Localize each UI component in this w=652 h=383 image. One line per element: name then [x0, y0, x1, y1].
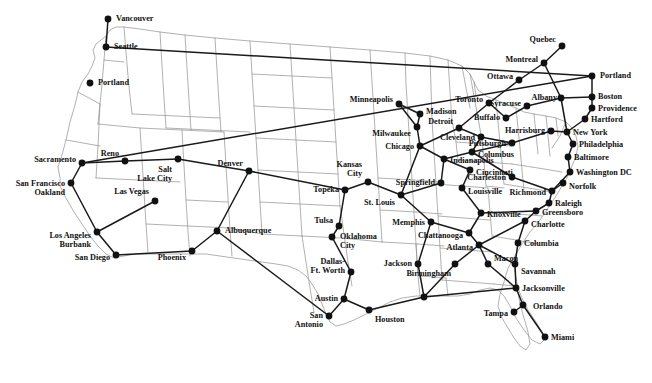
city-node[interactable] [105, 16, 112, 23]
city-node[interactable] [452, 261, 459, 268]
city-label: Harrisburg [505, 127, 545, 136]
city-label: Orlando [533, 303, 563, 312]
city-label: Seattle [114, 43, 138, 52]
city-node[interactable] [485, 261, 492, 268]
city-node[interactable] [417, 143, 424, 150]
city-label: Sacramento [34, 156, 76, 165]
city-node[interactable] [522, 218, 529, 225]
city-node[interactable] [341, 296, 348, 303]
city-label: Boston [598, 93, 622, 102]
city-label: Macon [494, 255, 518, 264]
city-label: Montreal [505, 56, 538, 65]
city-label: San Francisco Oakland [16, 180, 65, 197]
city-node[interactable] [524, 103, 531, 110]
city-node[interactable] [456, 125, 463, 132]
city-node[interactable] [541, 60, 548, 67]
city-node[interactable] [533, 208, 540, 215]
city-label: Columbia [524, 240, 559, 249]
city-node[interactable] [564, 129, 571, 136]
city-label: Chicago [385, 143, 414, 152]
city-node[interactable] [396, 101, 403, 108]
city-node[interactable] [113, 252, 120, 259]
city-node[interactable] [342, 187, 349, 194]
city-node[interactable] [189, 248, 196, 255]
city-node[interactable] [542, 334, 549, 341]
city-node[interactable] [570, 141, 577, 148]
city-node[interactable] [558, 95, 565, 102]
city-label: Toronto [455, 96, 483, 105]
city-node[interactable] [478, 210, 485, 217]
route-line [97, 232, 116, 255]
city-node[interactable] [326, 313, 333, 320]
city-node[interactable] [476, 242, 483, 249]
city-node[interactable] [417, 111, 424, 118]
city-node[interactable] [459, 185, 466, 192]
city-node[interactable] [589, 105, 596, 112]
city-node[interactable] [336, 223, 343, 230]
city-node[interactable] [520, 302, 527, 309]
city-label: San Diego [75, 254, 110, 263]
city-node[interactable] [589, 73, 596, 80]
city-node[interactable] [516, 77, 523, 84]
city-label: Syracuse [490, 100, 521, 109]
route-network-map: VancouverSeattlePortlandSacramentoSan Fr… [0, 0, 652, 383]
city-node[interactable] [366, 307, 373, 314]
city-node[interactable] [515, 240, 522, 247]
city-node[interactable] [152, 198, 159, 205]
city-node[interactable] [79, 160, 86, 167]
city-node[interactable] [87, 80, 94, 87]
city-node[interactable] [559, 43, 566, 50]
city-node[interactable] [546, 200, 553, 207]
city-label: Houston [375, 316, 405, 325]
city-node[interactable] [565, 154, 572, 161]
city-node[interactable] [365, 179, 372, 186]
city-node[interactable] [589, 94, 596, 101]
route-line [369, 297, 424, 310]
route-line [71, 163, 82, 183]
city-node[interactable] [68, 180, 75, 187]
city-node[interactable] [582, 116, 589, 123]
city-node[interactable] [441, 156, 448, 163]
city-label: Richmond [510, 189, 546, 198]
city-node[interactable] [103, 44, 110, 51]
city-node[interactable] [329, 234, 336, 241]
city-label: Charleston [467, 174, 506, 183]
city-node[interactable] [466, 230, 473, 237]
city-label: Albany [532, 94, 557, 103]
route-line [82, 76, 592, 163]
city-label: Washington DC [576, 169, 632, 178]
city-node[interactable] [348, 269, 355, 276]
city-node[interactable] [398, 192, 405, 199]
city-node[interactable] [513, 285, 520, 292]
city-node[interactable] [428, 219, 435, 226]
city-node[interactable] [509, 140, 516, 147]
city-node[interactable] [246, 168, 253, 175]
city-label: Salt Lake City [137, 166, 172, 183]
city-node[interactable] [94, 229, 101, 236]
city-node[interactable] [549, 188, 556, 195]
city-node[interactable] [503, 115, 510, 122]
city-label: New York [573, 129, 608, 138]
route-line [561, 97, 592, 98]
city-node[interactable] [438, 180, 445, 187]
city-node[interactable] [122, 158, 129, 165]
route-line [488, 264, 516, 288]
city-node[interactable] [567, 169, 574, 176]
city-node[interactable] [421, 294, 428, 301]
city-label: Denver [218, 160, 243, 169]
city-node[interactable] [548, 128, 555, 135]
route-line [424, 288, 516, 297]
city-label: Portland [98, 79, 129, 88]
city-label: Los Angeles Burbank [49, 232, 91, 249]
city-node[interactable] [560, 180, 567, 187]
city-node[interactable] [469, 149, 476, 156]
city-node[interactable] [175, 156, 182, 163]
city-node[interactable] [511, 309, 518, 316]
city-node[interactable] [214, 228, 221, 235]
city-node[interactable] [414, 124, 421, 131]
city-label: St. Louis [364, 199, 395, 208]
route-line [344, 272, 351, 299]
route-line [106, 19, 108, 47]
city-node[interactable] [415, 261, 422, 268]
city-label: Springfield [396, 179, 435, 188]
